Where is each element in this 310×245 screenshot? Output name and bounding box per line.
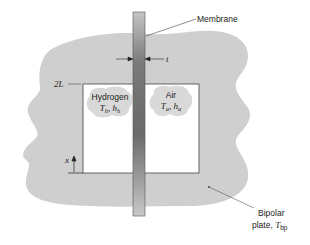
- bipolar-label-line2: plate, Tbp: [252, 220, 288, 232]
- x-axis-label: x: [64, 155, 69, 165]
- height-label: 2L: [54, 79, 64, 89]
- bipolar-label-line1: Bipolar: [258, 208, 285, 218]
- membrane-label: Membrane: [197, 14, 238, 24]
- membrane: [133, 12, 145, 216]
- fuel-cell-diagram: Membrane t 2L x Hydrogen Th, hh Air Ta, …: [0, 0, 310, 245]
- air-label: Air: [166, 90, 177, 100]
- hydrogen-label: Hydrogen: [92, 92, 129, 102]
